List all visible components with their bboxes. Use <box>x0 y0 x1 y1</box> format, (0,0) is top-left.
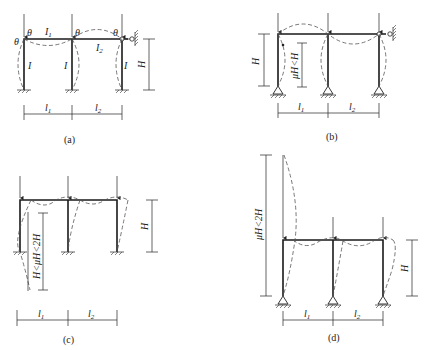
svg-text:l2: l2 <box>95 102 102 115</box>
buckled-column <box>283 155 296 296</box>
svg-text:H: H <box>250 57 261 66</box>
pinned-support-icon <box>270 86 387 98</box>
effective-length-dimension: μH<H <box>289 43 307 87</box>
svg-text:l2: l2 <box>349 101 356 114</box>
caption-a: (a) <box>64 134 75 146</box>
svg-text:μH<2H: μH<2H <box>253 208 264 241</box>
theta-label: θ <box>27 27 32 38</box>
column-inertia-label: I <box>27 60 32 71</box>
buckled-column <box>68 200 80 252</box>
buckled-column <box>333 241 343 296</box>
theta-label: θ <box>113 27 118 38</box>
svg-text:l1: l1 <box>45 102 51 115</box>
svg-text:l2: l2 <box>88 308 95 321</box>
buckled-column <box>72 39 79 90</box>
svg-text:H: H <box>139 222 150 231</box>
fixed-support-icon <box>17 90 129 93</box>
height-dimension: H <box>139 200 158 252</box>
span-dimension: l1 l2 <box>24 102 122 120</box>
panel-a: θ θ θ θ I1 I2 I I I H l1 l2 (a) <box>14 14 155 146</box>
height-dimension: H <box>399 240 418 296</box>
svg-text:l1: l1 <box>298 101 304 114</box>
effective-length-dimension: μH<2H <box>253 155 272 296</box>
inflection-point-icon <box>282 44 285 47</box>
caption-b: (b) <box>326 131 338 143</box>
svg-text:l2: l2 <box>354 308 361 321</box>
span-dimension: l1 l2 <box>283 308 383 326</box>
svg-text:H: H <box>399 264 410 273</box>
svg-text:H<μH<2H: H<μH<2H <box>31 233 42 280</box>
column-inertia-label: I <box>123 60 128 71</box>
frame-buckling-diagram: θ θ θ θ I1 I2 I I I H l1 l2 (a) <box>0 0 426 350</box>
caption-d: (d) <box>328 332 340 344</box>
guided-support-icon <box>388 25 396 41</box>
span-dimension: l1 l2 <box>17 308 117 326</box>
guided-support-icon <box>126 30 138 46</box>
svg-text:l1: l1 <box>304 308 310 321</box>
panel-c: H<μH<2H H l1 l2 (c) <box>13 176 158 346</box>
buckled-beam <box>24 30 122 46</box>
svg-text:I1: I1 <box>44 26 52 39</box>
buckled-column <box>117 200 128 252</box>
buckled-column <box>383 240 395 296</box>
buckled-column <box>278 34 285 86</box>
panel-d: μH<2H H l1 l2 (d) <box>253 155 418 344</box>
effective-length-dimension: H<μH<2H <box>28 212 48 291</box>
svg-text:μH<H: μH<H <box>289 52 300 80</box>
buckled-column <box>321 34 328 86</box>
buckled-column <box>379 34 386 86</box>
theta-label: θ <box>14 36 19 47</box>
caption-c: (c) <box>63 334 74 346</box>
pinned-support-icon <box>275 296 391 308</box>
svg-text:H: H <box>136 60 147 69</box>
span-dimension: l1 l2 <box>278 101 379 118</box>
height-dimension: H <box>136 39 155 90</box>
fixed-support-icon <box>13 252 124 255</box>
column-inertia-label: I <box>63 60 68 71</box>
height-dimension: H <box>250 34 270 86</box>
svg-text:I2: I2 <box>95 42 103 55</box>
svg-text:l1: l1 <box>38 308 44 321</box>
buckled-column <box>116 39 122 90</box>
theta-label: θ <box>75 27 80 38</box>
panel-b: H μH<H l1 l2 (b) <box>250 13 396 143</box>
